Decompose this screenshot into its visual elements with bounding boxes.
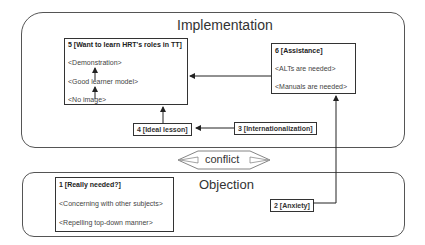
- arrow-2-to-6: [313, 96, 336, 203]
- conflict-label: conflict: [205, 153, 239, 165]
- connectors: [0, 0, 425, 245]
